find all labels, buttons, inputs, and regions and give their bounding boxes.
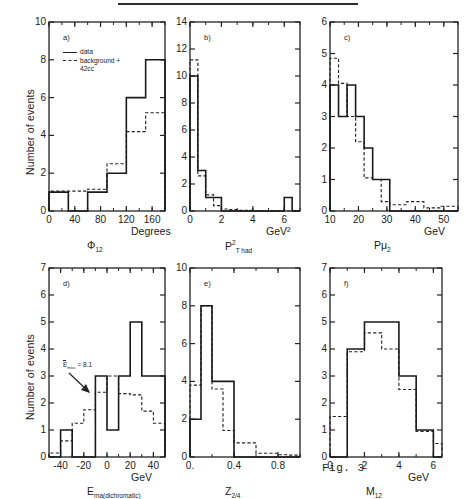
axes-frame [190,268,300,457]
x-unit-label-f: GeV [408,471,429,483]
y-tick-label: 14 [174,16,187,27]
data-histogram [190,76,300,211]
x-tick-label: 4 [237,214,269,225]
x-tick-label: 6 [417,460,449,471]
figure-number: Fig. 3 [322,462,365,474]
x-tick-label: 10 [314,214,346,225]
panel-tag-f: f) [344,279,349,288]
data-histogram [330,322,442,457]
x-variable-label-d: Ema(dichromatic) [87,485,141,499]
x-variable-label-e: Z2/4 [225,485,240,499]
x-tick-label: 30 [371,214,403,225]
x-tick-label: 40 [137,460,169,471]
y-tick-label: 3 [314,111,327,122]
background-histogram [330,58,458,211]
x-variable-label-a: Φ12 [87,239,103,253]
y-tick-label: 2 [314,397,327,408]
x-tick-label: 160 [136,214,168,225]
y-tick-label: 10 [33,16,46,27]
panel-tag-a: a) [63,33,70,42]
panel-tag-d: d) [63,279,70,288]
y-tick-label: 10 [174,70,187,81]
y-tick-label: 10 [174,262,187,273]
y-tick-label: 4 [314,343,327,354]
x-variable-label-f: M12 [366,485,382,499]
data-histogram [190,306,300,457]
x-tick-label: 0.4 [218,460,250,471]
y-tick-label: 6 [174,338,187,349]
data-histogram [330,85,458,211]
legend-entry-data: data [63,48,120,57]
panel-e [190,268,300,457]
legend-label-data: data [80,48,93,57]
y-tick-label: 8 [33,54,46,65]
data-histogram [49,60,165,211]
x-tick-label: 2 [205,214,237,225]
y-tick-label: 1 [314,424,327,435]
x-tick-label: 4 [383,460,415,471]
legend-entry-background: background + [63,57,120,66]
y-axis-label-bottom: Number of events [24,334,36,420]
data-histogram [49,322,165,457]
y-tick-label: 5 [314,316,327,327]
y-axis-label-top: Number of events [24,89,36,175]
x-unit-label-b: GeV² [266,225,291,237]
x-tick-label: 0. [174,460,206,471]
x-variable-label-c: Pμ2 [374,239,391,253]
y-tick-label: 1 [314,174,327,185]
y-tick-label: 4 [174,151,187,162]
x-unit-label-c: GeV [424,225,445,237]
panel-f [330,268,442,457]
y-tick-label: 8 [174,97,187,108]
legend-label-background2: 42cc [63,65,120,74]
y-tick-label: 1 [33,424,46,435]
background-histogram [190,306,300,457]
x-unit-label-d: GeV [131,471,152,483]
x-tick-label: 0.8 [262,460,294,471]
x-variable-label-b: P2T had [225,239,252,254]
y-tick-label: 4 [314,79,327,90]
x-tick-label: 50 [428,214,460,225]
panel-tag-e: e) [204,279,211,288]
y-tick-label: 7 [314,262,327,273]
axes-frame [330,22,458,211]
y-tick-label: 3 [314,370,327,381]
panel-b [190,22,300,211]
y-tick-label: 6 [174,124,187,135]
background-histogram [49,113,165,211]
x-tick-label: 40 [399,214,431,225]
x-tick-label: 20 [342,214,374,225]
panel-tag-c: c) [344,33,350,42]
y-tick-label: 6 [33,289,46,300]
y-tick-label: 5 [314,48,327,59]
y-tick-label: 4 [174,375,187,386]
panel-tag-b: b) [204,33,211,42]
y-tick-label: 5 [33,316,46,327]
y-tick-label: 8 [174,300,187,311]
y-tick-label: 12 [174,43,187,54]
y-tick-label: 2 [174,178,187,189]
solid-line-swatch [63,52,77,53]
y-tick-label: 6 [314,16,327,27]
y-tick-label: 7 [33,262,46,273]
x-tick-label: 6 [268,214,300,225]
legend-label-background: background + [80,57,120,66]
x-tick-label: 0 [174,214,206,225]
y-tick-label: 2 [314,142,327,153]
legend: databackground +42cc [63,48,120,74]
y-tick-label: 2 [174,413,187,424]
y-tick-label: 6 [314,289,327,300]
panel-c [330,22,458,211]
x-unit-label-a: Degrees [131,225,171,237]
emiss-annotation: Emiss = 8.1 [63,361,92,370]
dashed-line-swatch [63,60,77,61]
